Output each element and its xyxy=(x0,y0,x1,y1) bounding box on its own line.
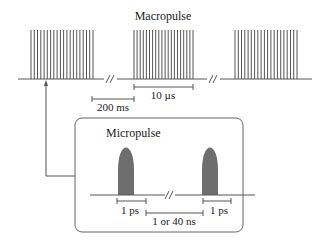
spacing-label: 200 ms xyxy=(97,101,129,113)
macropulse-group-2 xyxy=(134,30,193,79)
micropulse-spacing-label: 1 or 40 ns xyxy=(152,215,196,227)
duration-label: 10 µs xyxy=(151,89,175,101)
macropulse-title: Macropulse xyxy=(135,9,192,23)
connector-arrow xyxy=(46,84,75,176)
micropulse-baseline xyxy=(90,191,255,199)
pulse-structure-diagram: Macropulse 10 µs 200 ms Micropulse xyxy=(0,0,326,247)
arrow-head-icon xyxy=(44,80,48,86)
micropulse-width-label-left: 1 ps xyxy=(121,204,139,216)
macropulse-group-3 xyxy=(235,30,297,79)
micropulse-width-label-right: 1 ps xyxy=(210,204,228,216)
micropulse-title: Micropulse xyxy=(106,126,161,140)
micropulse-2 xyxy=(202,148,218,196)
micropulse-1 xyxy=(118,148,134,196)
macropulse-group-1 xyxy=(31,30,93,79)
